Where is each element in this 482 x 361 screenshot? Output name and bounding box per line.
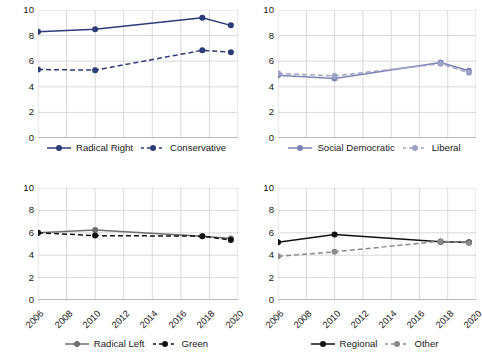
chart-panel-bottom-right bbox=[278, 188, 476, 300]
data-point bbox=[278, 253, 281, 259]
plot-area bbox=[38, 188, 238, 300]
chart-panel-bottom-left bbox=[38, 188, 238, 300]
data-point bbox=[332, 73, 338, 79]
y-tick-label: 6 bbox=[254, 227, 274, 238]
data-point bbox=[466, 240, 472, 246]
y-tick-label: 8 bbox=[254, 30, 274, 41]
x-tick-label: 2006 bbox=[16, 308, 46, 338]
legend-key-icon bbox=[64, 339, 90, 349]
data-point bbox=[466, 70, 472, 76]
legend-item[interactable]: Radical Right bbox=[46, 142, 133, 153]
legend-label: Radical Right bbox=[76, 142, 133, 153]
y-tick-label: 4 bbox=[14, 249, 34, 260]
data-point bbox=[332, 249, 338, 255]
y-tick-label: 10 bbox=[254, 4, 274, 15]
legend-label: Radical Left bbox=[94, 338, 145, 349]
x-tick-label: 2018 bbox=[187, 308, 217, 338]
y-tick-label: 10 bbox=[14, 182, 34, 193]
y-tick-label: 8 bbox=[254, 204, 274, 215]
data-point bbox=[199, 47, 205, 53]
legend-label: Liberal bbox=[432, 142, 461, 153]
data-point bbox=[92, 227, 98, 233]
plot-area bbox=[278, 10, 476, 138]
x-tick-label: 2012 bbox=[102, 308, 132, 338]
data-point bbox=[92, 67, 98, 73]
y-tick-label: 6 bbox=[14, 227, 34, 238]
legend-item[interactable]: Radical Left bbox=[64, 338, 145, 349]
data-point bbox=[92, 233, 98, 239]
y-tick-label: 0 bbox=[254, 294, 274, 305]
x-tick-label: 2014 bbox=[369, 308, 399, 338]
plot-area bbox=[278, 188, 476, 300]
legend-label: Social Democratic bbox=[317, 142, 394, 153]
legend-item[interactable]: Conservative bbox=[140, 142, 226, 153]
legend-item[interactable]: Liberal bbox=[402, 142, 461, 153]
legend-top-right: Social DemocraticLiberal bbox=[268, 142, 480, 153]
data-point bbox=[38, 230, 41, 236]
x-tick-label: 2010 bbox=[73, 308, 103, 338]
y-tick-label: 4 bbox=[254, 249, 274, 260]
legend-key-icon bbox=[402, 143, 428, 153]
x-tick-label: 2020 bbox=[216, 308, 246, 338]
x-tick-label: 2012 bbox=[341, 308, 371, 338]
data-point bbox=[438, 61, 444, 67]
legend-key-icon bbox=[384, 339, 410, 349]
legend-key-icon bbox=[46, 143, 72, 153]
legend-label: Conservative bbox=[170, 142, 226, 153]
y-tick-label: 8 bbox=[14, 30, 34, 41]
y-tick-label: 2 bbox=[254, 106, 274, 117]
x-tick-label: 2014 bbox=[130, 308, 160, 338]
y-tick-label: 2 bbox=[14, 272, 34, 283]
y-tick-label: 6 bbox=[254, 55, 274, 66]
data-point bbox=[228, 22, 234, 28]
data-point bbox=[332, 231, 338, 237]
data-point bbox=[438, 238, 444, 244]
legend-label: Regional bbox=[340, 338, 378, 349]
data-point bbox=[199, 15, 205, 21]
legend-bottom-left: Radical LeftGreen bbox=[30, 338, 242, 349]
y-tick-label: 2 bbox=[14, 106, 34, 117]
data-point bbox=[228, 49, 234, 55]
legend-key-icon bbox=[152, 339, 178, 349]
x-tick-label: 2016 bbox=[159, 308, 189, 338]
legend-key-icon bbox=[310, 339, 336, 349]
legend-bottom-right: RegionalOther bbox=[268, 338, 480, 349]
legend-top-left: Radical RightConservative bbox=[30, 142, 242, 153]
y-tick-label: 2 bbox=[254, 272, 274, 283]
data-point bbox=[228, 237, 234, 243]
data-point bbox=[278, 239, 281, 245]
data-point bbox=[199, 233, 205, 239]
legend-key-icon bbox=[140, 143, 166, 153]
data-point bbox=[38, 67, 41, 73]
legend-item[interactable]: Other bbox=[384, 338, 438, 349]
y-tick-label: 6 bbox=[14, 55, 34, 66]
figure: Salience of Immigration 0246810Radical R… bbox=[0, 0, 482, 361]
data-point bbox=[38, 29, 41, 35]
y-tick-label: 8 bbox=[14, 204, 34, 215]
y-tick-label: 0 bbox=[14, 294, 34, 305]
legend-item[interactable]: Regional bbox=[310, 338, 378, 349]
y-tick-label: 4 bbox=[254, 81, 274, 92]
legend-label: Other bbox=[414, 338, 438, 349]
legend-item[interactable]: Social Democratic bbox=[287, 142, 394, 153]
x-tick-label: 2006 bbox=[256, 308, 286, 338]
legend-label: Green bbox=[182, 338, 209, 349]
x-tick-label: 2016 bbox=[397, 308, 427, 338]
x-tick-label: 2018 bbox=[426, 308, 456, 338]
legend-item[interactable]: Green bbox=[152, 338, 209, 349]
x-tick-label: 2010 bbox=[312, 308, 342, 338]
x-tick-label: 2008 bbox=[44, 308, 74, 338]
plot-area bbox=[38, 10, 238, 138]
x-tick-label: 2020 bbox=[454, 308, 482, 338]
y-tick-label: 10 bbox=[254, 182, 274, 193]
x-tick-label: 2008 bbox=[284, 308, 314, 338]
y-tick-label: 4 bbox=[14, 81, 34, 92]
chart-panel-top-left bbox=[38, 10, 238, 138]
legend-key-icon bbox=[287, 143, 313, 153]
chart-panel-top-right bbox=[278, 10, 476, 138]
data-point bbox=[92, 26, 98, 32]
y-tick-label: 10 bbox=[14, 4, 34, 15]
